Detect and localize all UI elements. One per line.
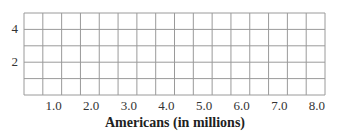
x-tick-label: 2.0 bbox=[69, 99, 99, 112]
x-tick-label: 1.0 bbox=[32, 99, 62, 112]
x-tick-label: 7.0 bbox=[257, 99, 287, 112]
y-tick-label: 4 bbox=[6, 22, 18, 35]
x-axis-label: Americans (in millions) bbox=[80, 115, 270, 131]
x-tick-label: 3.0 bbox=[107, 99, 137, 112]
y-tick-label: 2 bbox=[6, 55, 18, 68]
x-tick-label: 5.0 bbox=[182, 99, 212, 112]
x-tick-label: 6.0 bbox=[220, 99, 250, 112]
x-tick-label: 4.0 bbox=[145, 99, 175, 112]
x-tick-label: 8.0 bbox=[295, 99, 325, 112]
empty-grid-chart: 42 1.02.03.04.05.06.07.08.0 Americans (i… bbox=[0, 0, 344, 138]
